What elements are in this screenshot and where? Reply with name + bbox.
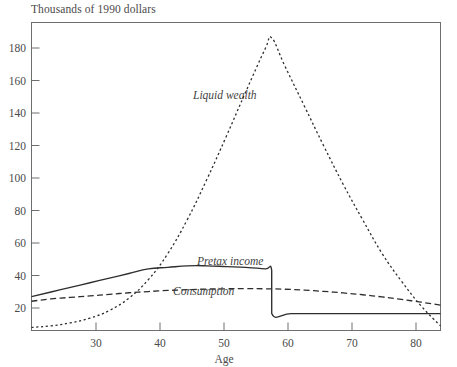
y-axis-tick-labels: 180 160 140 120 100 80 60 40 20 bbox=[9, 42, 27, 314]
y-tick-label-100: 100 bbox=[9, 172, 27, 184]
y-tick-label-40: 40 bbox=[15, 270, 27, 282]
y-tick-label-20: 20 bbox=[15, 302, 27, 314]
x-tick-label-80: 80 bbox=[410, 337, 422, 349]
series-consumption bbox=[32, 289, 441, 305]
x-tick-label-30: 30 bbox=[90, 337, 102, 349]
y-axis-ticks bbox=[32, 48, 40, 308]
x-axis-tick-labels: 30 40 50 60 70 80 bbox=[90, 337, 422, 349]
y-tick-label-160: 160 bbox=[9, 75, 27, 87]
x-tick-label-70: 70 bbox=[346, 337, 358, 349]
y-tick-label-80: 80 bbox=[15, 205, 27, 217]
figure-container: Thousands of 1990 dollars 180 160 140 12… bbox=[0, 0, 457, 367]
y-tick-label-180: 180 bbox=[9, 42, 27, 54]
series-label-pretax-income: Pretax income bbox=[196, 255, 263, 267]
series-label-liquid-wealth: Liquid wealth bbox=[192, 89, 257, 102]
series-liquid-wealth bbox=[32, 37, 441, 328]
chart-canvas: 180 160 140 120 100 80 60 40 20 30 40 50… bbox=[0, 0, 457, 367]
y-tick-label-140: 140 bbox=[9, 107, 27, 119]
x-axis-ticks bbox=[96, 323, 416, 331]
series-label-consumption: Consumption bbox=[173, 285, 235, 298]
x-tick-label-60: 60 bbox=[282, 337, 294, 349]
y-tick-label-120: 120 bbox=[9, 140, 27, 152]
y-tick-label-60: 60 bbox=[15, 237, 27, 249]
series-pretax-income bbox=[32, 266, 441, 318]
y-axis-title: Thousands of 1990 dollars bbox=[31, 2, 156, 16]
x-tick-label-50: 50 bbox=[218, 337, 230, 349]
x-tick-label-40: 40 bbox=[154, 337, 166, 349]
plot-frame bbox=[32, 23, 441, 331]
x-axis-title: Age bbox=[214, 353, 233, 366]
